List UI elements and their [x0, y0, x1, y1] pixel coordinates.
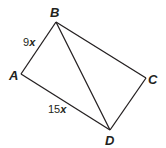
measure-ad: 15x [48, 103, 67, 115]
vertex-label-b: B [50, 5, 59, 20]
side-cd [110, 78, 146, 130]
vertex-label-c: C [148, 72, 158, 87]
measure-ad-coef: 15 [48, 103, 60, 115]
measure-ad-var: x [59, 103, 67, 115]
vertex-label-a: A [8, 68, 18, 83]
side-ab [21, 22, 56, 74]
parallelogram-diagram: B A C D 9x 15x [0, 0, 166, 148]
vertex-label-d: D [105, 133, 115, 148]
measure-ab-var: x [28, 36, 36, 48]
measure-ab: 9x [23, 36, 36, 48]
